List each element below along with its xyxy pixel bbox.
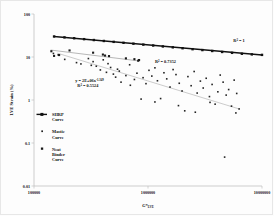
data-point xyxy=(83,38,85,40)
legend-shrp-line1: Curve xyxy=(52,117,64,122)
data-point xyxy=(205,77,207,79)
data-point xyxy=(102,54,104,56)
trendline-group xyxy=(51,36,262,108)
data-point xyxy=(241,53,243,55)
chart-canvas: 0.010.1110100 100000100000010000000 R2 =… xyxy=(0,0,274,216)
data-point xyxy=(64,59,66,61)
data-point xyxy=(172,46,174,48)
data-point xyxy=(231,52,233,54)
data-point xyxy=(118,70,120,72)
data-point xyxy=(251,53,253,55)
data-point xyxy=(113,73,115,75)
data-point xyxy=(209,102,211,104)
data-point xyxy=(130,84,132,86)
data-point xyxy=(58,54,60,56)
figure-container: 0.010.1110100 100000100000010000000 R2 =… xyxy=(0,0,274,216)
data-point xyxy=(178,105,180,107)
x-tick-group: 100000100000010000000 xyxy=(28,186,270,195)
data-point xyxy=(211,50,213,52)
data-point xyxy=(148,70,150,72)
legend-marker-square-2 xyxy=(41,148,43,150)
data-point xyxy=(160,98,162,100)
axes-group xyxy=(34,14,262,186)
data-point xyxy=(96,65,98,67)
data-point xyxy=(236,93,238,95)
data-point xyxy=(151,75,153,77)
legend-group: SHRPCurveMasticCurveNeatBinderCurve xyxy=(37,112,65,162)
data-point xyxy=(154,101,156,103)
data-point xyxy=(92,52,94,54)
data-point xyxy=(107,63,109,65)
data-point xyxy=(120,81,122,83)
data-point xyxy=(222,81,224,83)
data-point xyxy=(112,41,114,43)
data-point xyxy=(103,40,105,42)
data-point xyxy=(181,47,183,49)
y-ticklabel-2: 1 xyxy=(28,98,30,103)
data-point xyxy=(184,110,186,112)
legend-marker-square-0 xyxy=(40,113,43,116)
legend-neat-line2: Curve xyxy=(52,157,64,162)
data-point xyxy=(115,76,117,78)
data-point xyxy=(166,78,168,80)
data-point xyxy=(202,87,204,89)
data-point xyxy=(235,112,237,114)
data-point xyxy=(63,36,65,38)
data-point xyxy=(90,65,92,67)
data-point xyxy=(163,72,165,74)
data-point xyxy=(104,55,106,57)
annotation-r2-mastic: R2 = 0.5524 xyxy=(77,83,99,89)
y-ticklabel-3: 10 xyxy=(26,55,30,60)
data-point xyxy=(53,55,55,57)
annotation-r2-shrp: R2 = 1 xyxy=(233,38,244,44)
data-point xyxy=(187,76,189,78)
data-point xyxy=(68,49,70,51)
data-point xyxy=(125,57,127,59)
data-point xyxy=(211,84,213,86)
data-point xyxy=(100,69,102,71)
data-point xyxy=(106,72,108,74)
legend-mastic-line1: Curve xyxy=(52,135,64,140)
data-point xyxy=(140,98,142,100)
data-point xyxy=(200,80,202,82)
data-point xyxy=(92,61,94,63)
data-point xyxy=(93,39,95,41)
y-ticklabel-1: 0.1 xyxy=(25,141,30,146)
data-point xyxy=(224,156,226,158)
data-point xyxy=(154,67,156,69)
data-point xyxy=(219,74,221,76)
data-point xyxy=(190,85,192,87)
data-point xyxy=(195,111,197,113)
data-point xyxy=(122,42,124,44)
data-point xyxy=(221,51,223,53)
data-point xyxy=(133,58,135,60)
data-point xyxy=(191,48,193,50)
data-point xyxy=(175,74,177,76)
data-point xyxy=(53,53,55,55)
data-point xyxy=(117,68,119,70)
x-ticklabel-2: 10000000 xyxy=(254,190,270,195)
data-point xyxy=(129,64,131,66)
data-point xyxy=(76,62,78,64)
data-point xyxy=(53,35,55,37)
data-point xyxy=(178,82,180,84)
x-ticklabel-0: 100000 xyxy=(28,190,40,195)
data-point xyxy=(261,54,263,56)
data-point xyxy=(142,43,144,45)
y-tick-group: 0.010.1110100 xyxy=(23,12,34,189)
data-point xyxy=(108,55,110,57)
data-point xyxy=(132,42,134,44)
data-point xyxy=(138,59,140,61)
y-ticklabel-0: 0.01 xyxy=(23,184,30,189)
data-point xyxy=(181,90,183,92)
data-point xyxy=(228,89,230,91)
data-point xyxy=(196,92,198,94)
data-point xyxy=(152,44,154,46)
annotation-r2-neat: R2 = 0.7352 xyxy=(155,59,176,65)
data-point xyxy=(169,86,171,88)
x-ticklabel-1: 1000000 xyxy=(141,190,155,195)
legend-marker-square-1 xyxy=(41,130,43,132)
data-point xyxy=(125,75,127,77)
series-mastic-points xyxy=(53,53,240,158)
y-axis-title: LVE Strain (%) xyxy=(9,84,14,116)
